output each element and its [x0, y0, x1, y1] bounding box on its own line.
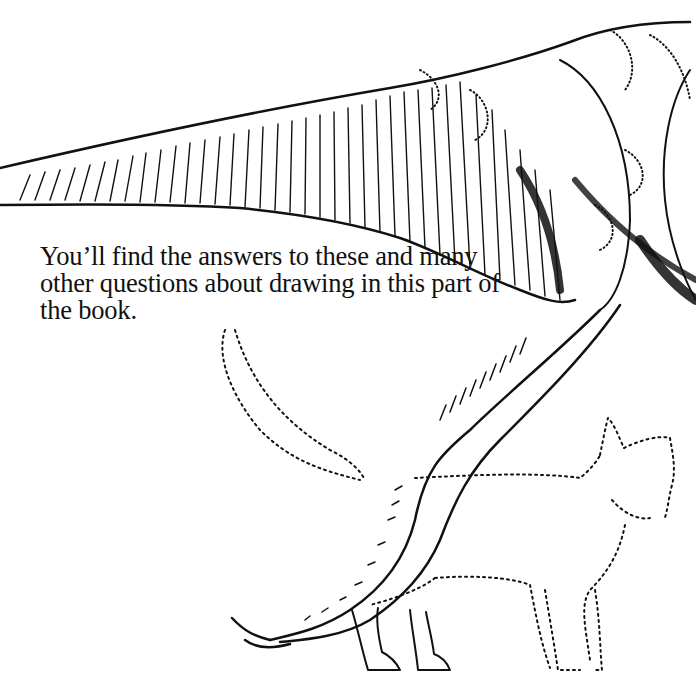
cat-outline-drawing [222, 330, 674, 670]
paragraph-line: other questions about drawing in this pa… [40, 270, 460, 297]
body-paragraph: You’ll find the answers to these and man… [40, 243, 460, 324]
paragraph-line: You’ll find the answers to these and man… [40, 243, 460, 270]
dinosaur-and-cat-illustration [0, 0, 696, 688]
paragraph-line: the book. [40, 297, 460, 324]
cat-hind-legs-drawing [352, 608, 450, 670]
book-page: You’ll find the answers to these and man… [0, 0, 696, 688]
